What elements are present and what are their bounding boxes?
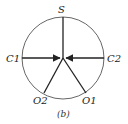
label-c1: C1 xyxy=(6,53,20,64)
caption: (b) xyxy=(57,109,70,119)
label-o1: O1 xyxy=(82,95,97,106)
spoke-o1 xyxy=(63,58,86,93)
label-o2: O2 xyxy=(33,95,48,106)
label-c2: C2 xyxy=(107,53,121,64)
circle-diagram: S C1 C2 O2 O1 (b) xyxy=(0,0,128,124)
spoke-o2 xyxy=(44,58,63,93)
label-s: S xyxy=(58,4,65,15)
